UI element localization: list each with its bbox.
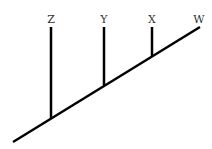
trunk-line xyxy=(13,27,200,142)
label-y: Y xyxy=(99,13,108,26)
cladogram-diagram: Z Y X W xyxy=(0,0,212,149)
label-z: Z xyxy=(47,13,55,26)
cladogram-svg: Z Y X W xyxy=(0,0,212,149)
label-x: X xyxy=(148,13,156,26)
label-w: W xyxy=(193,13,205,26)
